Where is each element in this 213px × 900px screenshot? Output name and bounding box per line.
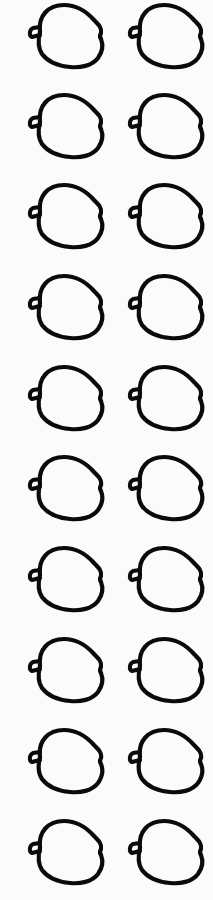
apple-outline-icon <box>126 182 206 250</box>
apple-outline-icon <box>26 92 106 160</box>
apple-outline-icon <box>126 636 206 704</box>
apple-outline-icon <box>126 364 206 432</box>
apple-outline-icon <box>126 92 206 160</box>
apple-outline-icon <box>26 454 106 522</box>
apple-sheet <box>0 0 213 900</box>
apple-outline-icon <box>26 364 106 432</box>
apple-outline-icon <box>26 2 106 70</box>
apple-outline-icon <box>126 545 206 613</box>
apple-outline-icon <box>26 818 106 886</box>
apple-outline-icon <box>126 818 206 886</box>
apple-outline-icon <box>26 182 106 250</box>
apple-outline-icon <box>126 2 206 70</box>
apple-outline-icon <box>26 273 106 341</box>
apple-outline-icon <box>126 727 206 795</box>
apple-outline-icon <box>26 636 106 704</box>
apple-outline-icon <box>126 454 206 522</box>
apple-outline-icon <box>26 545 106 613</box>
apple-outline-icon <box>26 727 106 795</box>
apple-outline-icon <box>126 273 206 341</box>
